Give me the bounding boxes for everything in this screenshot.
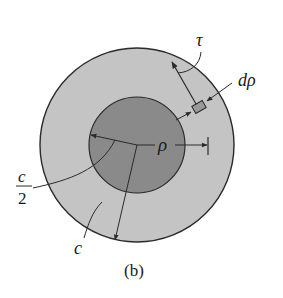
c-half-numerator-label: c xyxy=(18,167,26,186)
d-rho-label: dρ xyxy=(238,70,256,90)
c-half-denominator-label: 2 xyxy=(18,189,27,208)
shaft-cross-section-diagram: τ dρ ρ c 2 c (b) xyxy=(0,0,283,298)
figure-caption: (b) xyxy=(124,261,144,280)
rho-label: ρ xyxy=(157,134,167,155)
c-label: c xyxy=(74,238,82,258)
tau-label: τ xyxy=(196,30,203,50)
